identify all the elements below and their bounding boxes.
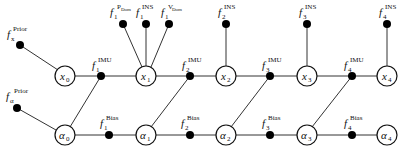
svg-text:Dom: Dom (172, 7, 182, 12)
svg-text:Bias: Bias (350, 114, 363, 122)
svg-text:IMU: IMU (98, 56, 112, 64)
prior-factor-x: f x Prior (7, 25, 28, 49)
svg-text:4: 4 (383, 13, 387, 21)
state-node-x2: x 2 (216, 66, 236, 86)
svg-text:Bias: Bias (268, 114, 281, 122)
svg-text:x: x (59, 70, 65, 82)
svg-text:α: α (10, 97, 14, 105)
bias-node-a4: α 4 (377, 125, 397, 145)
svg-text:2: 2 (185, 124, 189, 132)
bias-node-a2: α 2 (216, 125, 236, 145)
svg-text:0: 0 (66, 76, 70, 84)
svg-text:1: 1 (140, 13, 144, 21)
svg-text:4: 4 (388, 135, 392, 143)
svg-text:Bias: Bias (187, 114, 200, 122)
svg-text:IMU: IMU (188, 56, 202, 64)
svg-text:3: 3 (308, 135, 312, 143)
svg-text:2: 2 (222, 13, 226, 21)
svg-text:1: 1 (96, 66, 100, 74)
svg-text:α: α (140, 129, 146, 141)
svg-text:4: 4 (348, 124, 352, 132)
svg-text:INS: INS (224, 3, 235, 11)
svg-text:4: 4 (348, 66, 352, 74)
svg-text:1: 1 (165, 13, 169, 21)
svg-text:1: 1 (147, 76, 151, 84)
measurement-factor-ins-2: f 2 INS (218, 3, 235, 28)
prior-factor-alpha: f α Prior (6, 87, 29, 112)
svg-text:3: 3 (303, 13, 307, 21)
svg-text:Prior: Prior (14, 87, 29, 95)
state-node-x4: x 4 (377, 66, 397, 86)
measurement-factor-ins-1: f 1 INS (136, 3, 153, 28)
svg-text:α: α (59, 129, 65, 141)
svg-text:x: x (140, 70, 146, 82)
svg-text:0: 0 (66, 135, 70, 143)
svg-text:2: 2 (227, 135, 231, 143)
svg-text:x: x (11, 35, 15, 43)
svg-text:Bias: Bias (106, 114, 119, 122)
svg-text:2: 2 (186, 66, 190, 74)
svg-text:Prior: Prior (13, 25, 28, 33)
svg-text:INS: INS (385, 3, 396, 11)
svg-text:2: 2 (227, 76, 231, 84)
bias-node-a0: α 0 (55, 125, 75, 145)
svg-text:x: x (220, 70, 226, 82)
svg-text:4: 4 (388, 76, 392, 84)
svg-text:IMU: IMU (350, 56, 364, 64)
svg-text:INS: INS (142, 3, 153, 11)
svg-text:x: x (301, 70, 307, 82)
svg-text:α: α (301, 129, 307, 141)
svg-text:INS: INS (305, 3, 316, 11)
state-node-x3: x 3 (297, 66, 317, 86)
factor-graph: f x Prior f α Prior f 1 P Dom f 1 INS f … (0, 0, 399, 151)
svg-text:1: 1 (147, 135, 151, 143)
svg-text:IMU: IMU (268, 56, 282, 64)
svg-text:1: 1 (104, 124, 108, 132)
measurement-factor-p-dom-1: f 1 P Dom (110, 3, 131, 28)
svg-text:α: α (381, 129, 387, 141)
bias-node-a3: α 3 (297, 125, 317, 145)
svg-text:3: 3 (266, 66, 270, 74)
svg-text:3: 3 (266, 124, 270, 132)
svg-text:x: x (381, 70, 387, 82)
measurement-factor-v-dom-1: f 1 V Dom (161, 3, 182, 28)
svg-text:α: α (220, 129, 226, 141)
measurement-factor-ins-4: f 4 INS (379, 3, 396, 28)
state-node-x0: x 0 (55, 66, 75, 86)
state-node-x1: x 1 (136, 66, 156, 86)
svg-text:3: 3 (308, 76, 312, 84)
measurement-factor-ins-3: f 3 INS (299, 3, 316, 28)
bias-node-a1: α 1 (136, 125, 156, 145)
svg-text:Dom: Dom (121, 7, 131, 12)
svg-text:1: 1 (114, 13, 118, 21)
